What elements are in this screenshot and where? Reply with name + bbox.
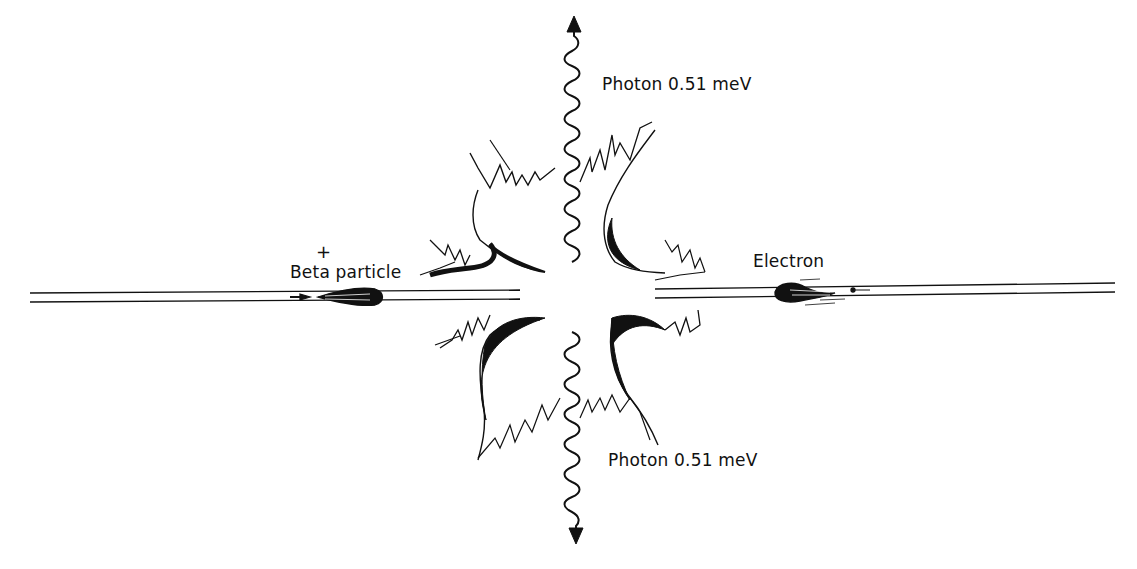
beta-particle-track	[30, 288, 520, 306]
photon-down-arrow	[565, 332, 584, 544]
annihilation-diagram	[0, 0, 1137, 569]
electron-blob	[775, 283, 835, 302]
burst-arm-upper-left	[420, 140, 555, 275]
beta-charge-label: +	[316, 241, 331, 262]
photon-top-label: Photon 0.51 meV	[602, 74, 752, 94]
beta-particle-label: Beta particle	[290, 262, 401, 282]
burst-arm-lower-right	[580, 310, 700, 445]
burst-arm-lower-left	[435, 315, 560, 460]
electron-track	[655, 279, 1115, 305]
photon-bottom-label: Photon 0.51 meV	[608, 450, 758, 470]
burst-arm-upper-right	[580, 122, 705, 280]
electron-label: Electron	[753, 251, 824, 271]
photon-up-arrow	[565, 16, 582, 262]
